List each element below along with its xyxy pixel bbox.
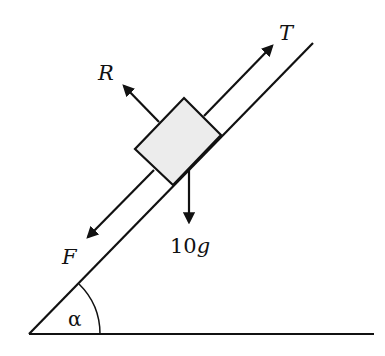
tension-arrow — [204, 46, 272, 116]
normal-label: R — [97, 61, 114, 85]
friction-arrow — [88, 170, 154, 237]
incline-plane — [29, 43, 313, 334]
normal-arrow — [124, 86, 159, 122]
weight-label-symbol: g — [197, 234, 210, 258]
friction-label: F — [61, 245, 78, 269]
angle-arc — [79, 284, 100, 334]
force-diagram: α T R F 10g — [0, 0, 385, 356]
angle-label: α — [68, 307, 82, 331]
tension-label: T — [279, 21, 295, 45]
weight-label-text: 10 — [170, 234, 197, 258]
weight-label: 10g — [170, 234, 210, 258]
